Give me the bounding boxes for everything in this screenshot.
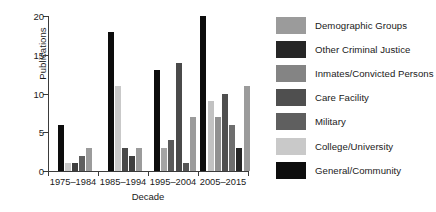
bar <box>222 94 228 172</box>
y-tick-label: 0 <box>39 166 44 177</box>
y-tick-label: 15 <box>33 49 44 60</box>
bar <box>79 156 85 172</box>
legend-swatch <box>276 89 306 106</box>
legend-swatch <box>276 113 306 130</box>
legend-item: Other Criminal Justice <box>276 37 434 61</box>
y-tick-label: 20 <box>33 11 44 22</box>
x-tick-mark <box>198 171 199 176</box>
legend-label: College/University <box>315 141 393 152</box>
legend-label: Inmates/Convicted Persons <box>315 68 434 79</box>
legend-item: Demographic Groups <box>276 13 434 37</box>
legend-swatch <box>276 162 306 179</box>
legend-item: General/Community <box>276 158 434 182</box>
legend-label: Care Facility <box>315 92 369 103</box>
bar <box>136 148 142 171</box>
y-tick-label: 10 <box>33 88 44 99</box>
bar <box>190 117 196 171</box>
x-tick-label: 2005–2015 <box>200 177 247 187</box>
bar <box>58 125 64 172</box>
legend-item: Inmates/Convicted Persons <box>276 61 434 85</box>
x-tick-mark <box>148 171 149 176</box>
x-tick-mark <box>98 171 99 176</box>
bar <box>229 125 235 172</box>
x-tick-mark <box>48 171 49 176</box>
plot-area: 05101520 1975–19841985–19941995–20042005… <box>48 16 248 171</box>
legend-label: Other Criminal Justice <box>315 44 410 55</box>
bar <box>108 32 114 172</box>
bar <box>122 148 128 171</box>
bar <box>65 163 71 171</box>
x-tick-mark <box>248 171 249 176</box>
x-axis-title: Decade <box>48 191 248 202</box>
legend-swatch <box>276 138 306 155</box>
bar <box>168 140 174 171</box>
legend-item: College/University <box>276 134 434 158</box>
bar <box>183 163 189 171</box>
bar <box>86 148 92 171</box>
bar <box>208 101 214 171</box>
x-tick-label: 1995–2004 <box>150 177 197 187</box>
legend-label: Military <box>315 116 346 127</box>
bar <box>72 163 78 171</box>
bar-chart-figure: Publications 05101520 1975–19841985–1994… <box>0 0 436 212</box>
legend: Demographic GroupsOther Criminal Justice… <box>276 13 434 182</box>
bar <box>115 86 121 171</box>
legend-item: Care Facility <box>276 86 434 110</box>
legend-label: General/Community <box>315 165 401 176</box>
bar <box>176 63 182 172</box>
bar <box>200 16 206 171</box>
legend-swatch <box>276 17 306 34</box>
legend-swatch <box>276 41 306 58</box>
legend-item: Military <box>276 110 434 134</box>
bar <box>215 117 221 171</box>
y-axis-line <box>48 16 49 171</box>
bar <box>129 156 135 172</box>
bar <box>236 148 242 171</box>
y-tick-label: 5 <box>39 127 44 138</box>
bar <box>244 86 250 171</box>
legend-label: Demographic Groups <box>315 20 407 31</box>
legend-swatch <box>276 65 306 82</box>
x-tick-label: 1975–1984 <box>50 177 97 187</box>
x-tick-label: 1985–1994 <box>100 177 147 187</box>
bar <box>154 70 160 171</box>
bar <box>161 148 167 171</box>
